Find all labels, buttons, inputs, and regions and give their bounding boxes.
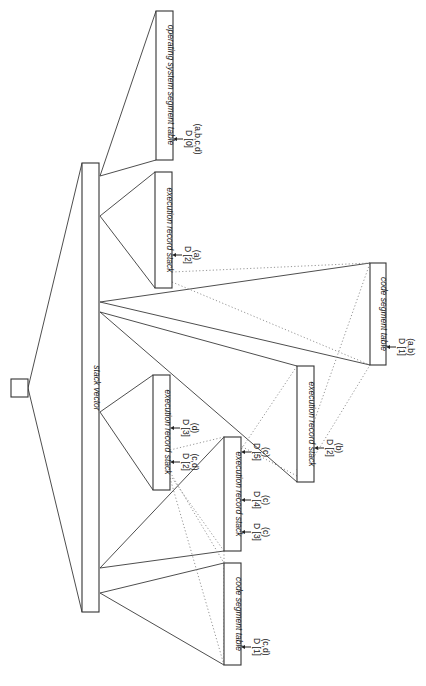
exec-stack-c-label: execution record stack <box>234 451 244 537</box>
pointer-tasks: (c) <box>261 495 271 505</box>
code-segment-table-cd: code segment table D [1] (c,d) <box>224 563 271 665</box>
pointer-tasks: (a,b,c,d) <box>193 123 203 154</box>
pointer-tasks: (a) <box>192 250 202 261</box>
pointer-label: D [2] <box>325 439 335 457</box>
pointer-label: D [0] <box>184 130 194 148</box>
pointer-tasks: (c,d) <box>261 639 271 656</box>
stack-vector: stack vector <box>82 163 102 612</box>
pointer-label: D [2] <box>183 246 193 264</box>
pointer-label: D [4] <box>252 491 262 509</box>
tree-connections <box>28 11 370 665</box>
code-segment-table-ab: code segment table D [1] (a,b) <box>370 263 416 365</box>
exec-stack-b: execution record stack D [2] (b) <box>297 366 344 482</box>
stack-vector-label: stack vector <box>92 365 102 412</box>
pointer-label: D [1] <box>397 338 407 356</box>
pointer-label: D [2] <box>181 453 191 471</box>
exec-stack-c: execution record stack D [5] (c) D [4] (… <box>224 437 271 551</box>
pointer-tasks: (b) <box>334 443 344 454</box>
exec-stack-b-label: execution record stack <box>307 381 317 467</box>
stack-tree-diagram: stack vector operating system segment ta… <box>0 0 426 686</box>
pointer-tasks: (c) <box>261 447 271 457</box>
os-segment-table: operating system segment table D [0] (a,… <box>156 11 203 160</box>
pointer-tasks: (c) <box>261 527 271 537</box>
pointer-label: D [5] <box>252 443 262 461</box>
exec-stack-a: execution record stack D [2] (a) <box>155 172 202 288</box>
pointer-tasks: (c,d) <box>190 454 200 471</box>
root-node <box>11 379 28 397</box>
pointer-label: D [3] <box>252 523 262 541</box>
code-segment-table-ab-label: code segment table <box>379 277 389 351</box>
pointer-tasks: (a,b) <box>406 338 416 356</box>
exec-stack-a-label: execution record stack <box>165 187 175 273</box>
code-segment-table-cd-label: code segment table <box>234 577 244 651</box>
pointer-label: D [1] <box>252 638 262 656</box>
pointer-label: D [3] <box>181 419 191 437</box>
os-segment-table-label: operating system segment table <box>166 25 176 146</box>
pointer-tasks: (d) <box>190 423 200 434</box>
